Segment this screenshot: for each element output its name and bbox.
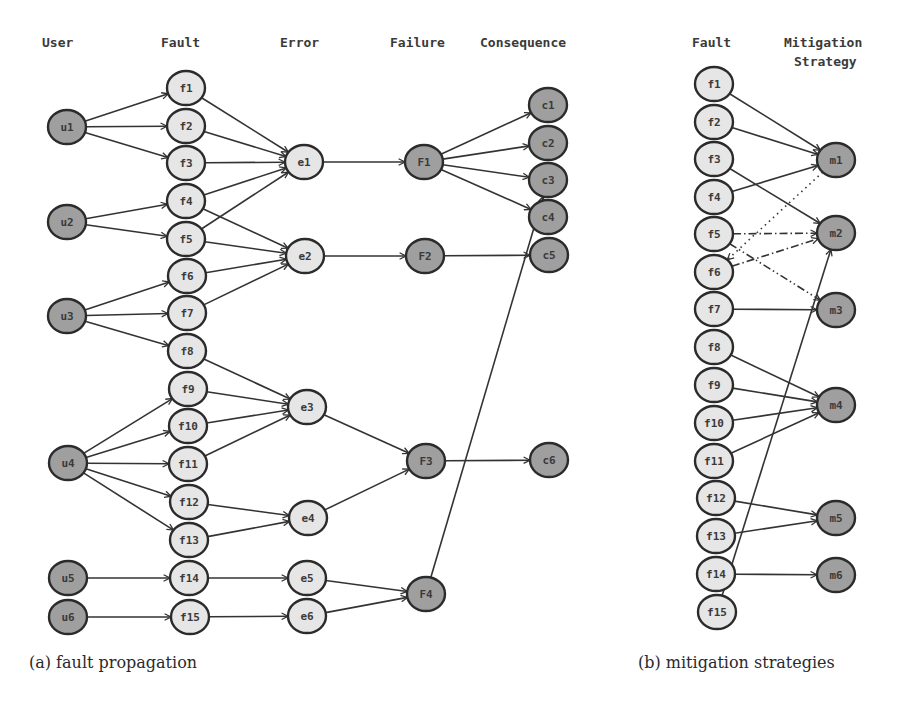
node-label: f12 xyxy=(179,496,199,509)
node-label: f3 xyxy=(179,157,192,170)
mitigation-edges xyxy=(722,94,831,596)
edge-af13-to-e4 xyxy=(208,521,290,536)
node-label: e4 xyxy=(301,512,315,525)
edge-F2-to-c5 xyxy=(444,255,530,256)
node-u6: u6 xyxy=(49,600,87,634)
column-header: Failure xyxy=(390,35,445,50)
node-label: f1 xyxy=(179,82,193,95)
edge-u4-to-af11 xyxy=(87,463,169,464)
edge-e4-to-F3 xyxy=(325,469,410,510)
node-c6: c6 xyxy=(530,443,568,477)
node-f10: f10 xyxy=(695,406,733,440)
node-e5: e5 xyxy=(288,561,326,595)
edge-u2-to-af5 xyxy=(86,225,167,237)
node-u3: u3 xyxy=(48,299,86,333)
mitigation-strategies-panel: FaultMitigationStrategy f1f2f3f4f5f6f7f8… xyxy=(638,35,862,672)
node-f12: f12 xyxy=(170,485,208,519)
node-label: e6 xyxy=(300,610,314,623)
node-label: F3 xyxy=(419,455,432,468)
node-m2: m2 xyxy=(817,216,855,250)
node-u2: u2 xyxy=(48,205,86,239)
node-f1: f1 xyxy=(167,71,205,105)
node-label: f1 xyxy=(707,78,721,91)
node-f6: f6 xyxy=(695,255,733,289)
node-e1: e1 xyxy=(285,145,323,179)
node-f15: f15 xyxy=(171,600,209,634)
node-label: f6 xyxy=(707,266,721,279)
edge-bf3-to-m2 xyxy=(730,169,821,224)
edge-bf15-to-m2 xyxy=(722,249,831,595)
node-label: f6 xyxy=(180,270,194,283)
node-f4: f4 xyxy=(695,180,733,214)
node-c5: c5 xyxy=(530,238,568,272)
edge-bf14-to-m6 xyxy=(735,574,817,575)
node-m5: m5 xyxy=(817,501,855,535)
node-label: f9 xyxy=(181,383,194,396)
edge-F3-to-c6 xyxy=(445,460,530,461)
column-header: Mitigation xyxy=(784,35,862,50)
caption-mitigation-strategies: (b) mitigation strategies xyxy=(638,653,835,672)
node-f10: f10 xyxy=(169,409,207,443)
node-label: e2 xyxy=(298,250,311,263)
node-label: F4 xyxy=(419,588,433,601)
fault-diagram: UserFaultErrorFailureConsequence u1u2u3u… xyxy=(0,0,922,714)
node-F3: F3 xyxy=(407,444,445,478)
edge-u3-to-af8 xyxy=(85,321,169,345)
edge-af9-to-e3 xyxy=(207,392,289,404)
node-label: u6 xyxy=(61,611,75,624)
node-f13: f13 xyxy=(170,523,208,557)
node-label: f14 xyxy=(179,572,199,585)
edge-u3-to-af6 xyxy=(85,282,169,310)
edge-e3-to-F3 xyxy=(324,415,409,454)
column-header: Fault xyxy=(161,35,200,50)
node-f11: f11 xyxy=(695,444,733,478)
node-f2: f2 xyxy=(695,105,733,139)
node-label: f3 xyxy=(707,153,720,166)
node-label: u5 xyxy=(61,572,74,585)
node-label: e3 xyxy=(300,401,313,414)
node-label: F2 xyxy=(418,250,431,263)
edge-F4-to-c3 xyxy=(431,196,543,577)
node-label: f5 xyxy=(707,228,720,241)
node-label: u1 xyxy=(60,121,74,134)
node-u1: u1 xyxy=(48,110,86,144)
node-label: f11 xyxy=(178,458,198,471)
node-label: f10 xyxy=(178,420,198,433)
node-u5: u5 xyxy=(49,561,87,595)
mitigation-nodes: f1f2f3f4f5f6f7f8f9f10f11f12f13f14f15m1m2… xyxy=(695,67,855,629)
edge-u3-to-af7 xyxy=(86,314,168,316)
node-label: f13 xyxy=(179,534,199,547)
node-c3: c3 xyxy=(529,163,567,197)
node-F1: F1 xyxy=(405,145,443,179)
edge-af2-to-e1 xyxy=(204,132,286,157)
column-header: Strategy xyxy=(794,54,857,69)
column-header: User xyxy=(42,35,73,50)
node-c4: c4 xyxy=(529,200,567,234)
node-label: f11 xyxy=(704,455,724,468)
edge-af3-to-e1 xyxy=(205,162,285,163)
node-label: c1 xyxy=(541,99,555,112)
node-m3: m3 xyxy=(817,293,855,327)
node-m6: m6 xyxy=(817,558,855,592)
edge-af12-to-e4 xyxy=(208,505,289,516)
node-label: e5 xyxy=(300,572,313,585)
node-e6: e6 xyxy=(288,599,326,633)
node-label: f12 xyxy=(706,492,726,505)
edge-bf10-to-m4 xyxy=(733,408,818,420)
node-label: u4 xyxy=(61,457,75,470)
node-u4: u4 xyxy=(49,446,87,480)
node-label: c6 xyxy=(542,454,556,467)
node-label: f4 xyxy=(179,195,193,208)
edge-af15-to-e6 xyxy=(209,616,288,617)
edge-bf5-to-m3 xyxy=(730,244,821,301)
node-f3: f3 xyxy=(167,146,205,180)
edge-e5-to-F4 xyxy=(326,581,407,592)
node-label: f15 xyxy=(180,611,200,624)
node-label: f7 xyxy=(707,303,720,316)
edge-u1-to-af3 xyxy=(85,132,168,157)
node-m4: m4 xyxy=(817,388,855,422)
node-f12: f12 xyxy=(697,481,735,515)
node-m1: m1 xyxy=(817,143,855,177)
node-label: f2 xyxy=(707,116,720,129)
node-label: f15 xyxy=(707,606,727,619)
